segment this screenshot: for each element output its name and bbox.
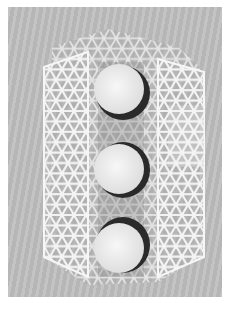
photograph bbox=[8, 7, 222, 297]
mesh-sculpture bbox=[8, 7, 222, 297]
mesh-front-right bbox=[158, 59, 204, 277]
mesh-front-left bbox=[44, 52, 88, 277]
